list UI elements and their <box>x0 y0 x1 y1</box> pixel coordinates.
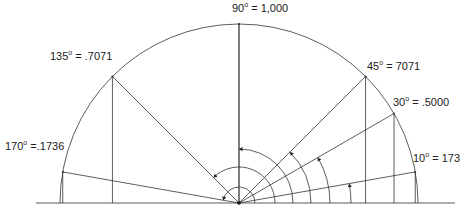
angle-point-30 <box>393 113 395 115</box>
angle-point-170 <box>62 171 64 173</box>
angle-label-170: 170o =.1736 <box>5 139 64 152</box>
angle-label-45: 45o = 7071 <box>367 59 420 72</box>
angle-label-30: 30o = .5000 <box>393 95 449 108</box>
origin-point <box>237 201 241 205</box>
angle-point-135 <box>111 75 113 77</box>
angle-arc-30 <box>318 158 330 204</box>
angle-label-90: 90o = 1,000 <box>232 1 288 14</box>
angle-point-45 <box>365 75 367 77</box>
arc-arrowhead-90 <box>239 147 243 151</box>
arc-arrowhead-170 <box>222 196 226 200</box>
angle-label-135: 135o = .7071 <box>50 49 112 62</box>
angle-point-90 <box>238 23 240 25</box>
angle-point-10 <box>414 171 416 173</box>
angle-arc-45 <box>290 152 311 203</box>
angle-label-10: 10o = 173 <box>413 151 460 164</box>
angle-labels: 10o = 17330o = .500045o = 707190o = 1,00… <box>5 1 460 164</box>
sine-semicircle-diagram: 10o = 17330o = .500045o = 707190o = 1,00… <box>0 0 465 214</box>
arc-arrowhead-10 <box>348 184 352 188</box>
